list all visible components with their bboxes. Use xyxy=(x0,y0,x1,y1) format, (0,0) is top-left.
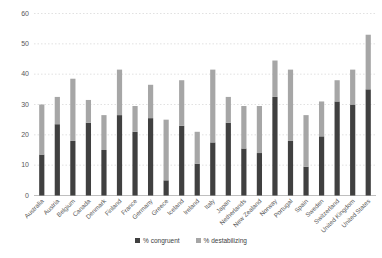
legend-item-congruent: % congruent xyxy=(135,237,180,244)
bar-segment-destabilizing xyxy=(195,132,200,164)
bar-segment-congruent xyxy=(226,123,231,196)
bar-segment-destabilizing xyxy=(164,120,169,181)
bar-segment-congruent xyxy=(39,155,44,196)
bar-segment-congruent xyxy=(366,89,371,195)
bar-segment-congruent xyxy=(257,153,262,195)
bar-segment-congruent xyxy=(303,167,308,196)
bar-segment-destabilizing xyxy=(335,80,340,101)
bar-segment-congruent xyxy=(164,180,169,195)
bar-segment-congruent xyxy=(195,164,200,196)
bar-segment-congruent xyxy=(288,141,293,196)
bar-segment-congruent xyxy=(148,118,153,195)
legend-swatch-destabilizing xyxy=(196,238,201,243)
x-tick-label: Ireland xyxy=(182,197,201,216)
stacked-bar-chart-figure: 0102030405060AustraliaAustriaBelgiumCana… xyxy=(0,0,382,258)
x-tick-label: Australia xyxy=(23,197,46,220)
bar-segment-destabilizing xyxy=(39,105,44,155)
legend-item-destabilizing: % destabilizing xyxy=(196,237,247,244)
bar-segment-destabilizing xyxy=(303,115,308,167)
bar-segment-congruent xyxy=(101,150,106,196)
bar-segment-congruent xyxy=(117,115,122,195)
y-tick-label: 10 xyxy=(21,161,29,168)
y-tick-label: 40 xyxy=(21,70,29,77)
bar-segment-congruent xyxy=(319,136,324,195)
x-tick-label: Iceland xyxy=(166,197,186,217)
bar-segment-congruent xyxy=(335,101,340,195)
bar-segment-destabilizing xyxy=(86,100,91,123)
legend-label-congruent: % congruent xyxy=(143,237,180,244)
legend-swatch-congruent xyxy=(135,238,140,243)
bar-segment-congruent xyxy=(86,123,91,196)
bar-segment-congruent xyxy=(350,105,355,196)
bar-segment-destabilizing xyxy=(319,101,324,136)
bar-segment-congruent xyxy=(132,132,137,196)
bar-segment-destabilizing xyxy=(350,70,355,105)
bar-segment-destabilizing xyxy=(70,79,75,141)
bar-segment-destabilizing xyxy=(55,97,60,124)
bar-segment-congruent xyxy=(70,141,75,196)
bar-segment-destabilizing xyxy=(366,35,371,90)
y-tick-label: 0 xyxy=(25,192,29,199)
y-tick-label: 20 xyxy=(21,131,29,138)
chart-legend: % congruent % destabilizing xyxy=(0,237,382,244)
bar-segment-destabilizing xyxy=(226,97,231,123)
bar-segment-congruent xyxy=(55,124,60,195)
x-tick-label: Finland xyxy=(103,197,123,217)
bar-segment-congruent xyxy=(272,97,277,196)
legend-label-destabilizing: % destabilizing xyxy=(204,237,247,244)
bar-segment-congruent xyxy=(241,148,246,195)
y-tick-label: 30 xyxy=(21,101,29,108)
y-tick-label: 60 xyxy=(21,10,29,17)
bar-segment-destabilizing xyxy=(288,70,293,141)
bar-segment-congruent xyxy=(210,142,215,195)
stacked-bar-chart-canvas: 0102030405060AustraliaAustriaBelgiumCana… xyxy=(0,0,382,236)
y-tick-label: 50 xyxy=(21,40,29,47)
bar-segment-destabilizing xyxy=(272,61,277,97)
bar-segment-destabilizing xyxy=(132,106,137,132)
bar-segment-destabilizing xyxy=(179,80,184,126)
bar-segment-destabilizing xyxy=(101,115,106,150)
bar-segment-destabilizing xyxy=(210,70,215,143)
bar-segment-destabilizing xyxy=(117,70,122,116)
bar-segment-destabilizing xyxy=(148,85,153,118)
bar-segment-destabilizing xyxy=(257,106,262,153)
bar-segment-destabilizing xyxy=(241,106,246,148)
bar-segment-congruent xyxy=(179,126,184,196)
